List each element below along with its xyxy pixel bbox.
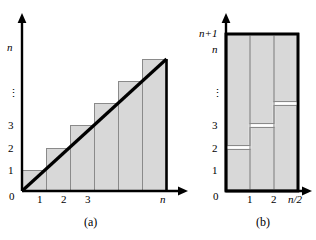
panel-b-xlabel-n-over-2: n/2 [288,194,302,205]
y-axis-arrow-icon [18,13,27,23]
panel-a-xlabel-1: 1 [37,194,43,205]
panel-a-xlabel-n: n [160,194,166,205]
panel-b-xlabel-1: 1 [247,194,253,205]
panel-b-origin-0: 0 [213,191,219,202]
panel-b-caption: (b) [256,215,270,230]
x-axis-arrow-icon [178,187,188,196]
panel-b-x-axis-arrow-icon [302,187,312,196]
panel-a-ylabel-2: 2 [8,143,14,154]
panel-a-xlabel-2: 2 [61,194,67,205]
panel-b-xlabel-2: 2 [271,194,277,205]
panel-b-ylabel-1: 1 [212,165,218,176]
bar-2 [47,149,71,191]
panel-b-rect [226,34,298,191]
panel-a-caption: (a) [84,215,97,230]
panel-a-origin-0: 0 [9,191,15,202]
panel-a-ylabel-3: 3 [8,120,14,131]
panel-b-ylabel-n-plus-1: n+1 [199,28,217,39]
panel-a-ylabel-n: n [7,42,13,53]
bar-4 [95,104,119,191]
panel-b-ylabel-vdots: ⋮ [212,88,223,99]
panel-b-y-axis-arrow-icon [222,13,231,23]
figure-canvas [0,0,316,240]
panel-a [18,13,188,195]
panel-b-ylabel-n: n [212,44,218,55]
panel-b [222,13,312,195]
panel-b-ylabel-2: 2 [212,143,218,154]
panel-a-xlabel-3: 3 [85,194,91,205]
panel-b-ylabel-3: 3 [212,120,218,131]
panel-a-ylabel-vdots: ⋮ [8,88,19,99]
panel-a-ylabel-1: 1 [8,165,14,176]
